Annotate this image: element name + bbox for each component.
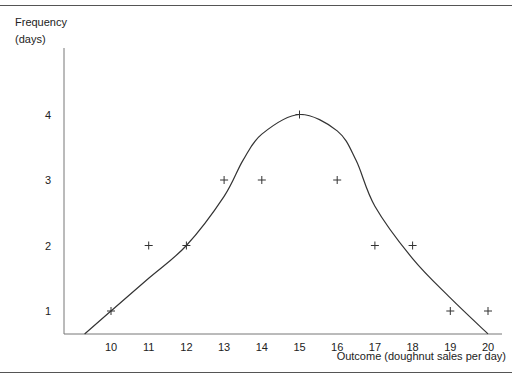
plus-marker — [409, 242, 417, 250]
x-tick-label: 14 — [256, 341, 268, 353]
plus-marker — [258, 176, 266, 184]
x-tick-label: 13 — [218, 341, 230, 353]
y-tick-label: 3 — [45, 174, 51, 186]
plus-marker — [446, 307, 454, 315]
x-tick-label: 10 — [105, 341, 117, 353]
fitted-curve — [85, 114, 488, 333]
chart-plot: 1234 1011121314151617181920 — [0, 0, 522, 380]
plus-marker — [371, 242, 379, 250]
y-tick-label: 4 — [45, 109, 51, 121]
x-tick-label: 12 — [180, 341, 192, 353]
plus-marker — [145, 242, 153, 250]
y-tick-labels: 1234 — [45, 109, 51, 318]
plus-marker — [484, 307, 492, 315]
x-tick-label: 15 — [293, 341, 305, 353]
x-axis-label: Outcome (doughnut sales per day) — [337, 350, 506, 362]
y-tick-label: 2 — [45, 240, 51, 252]
plus-marker — [220, 176, 228, 184]
x-tick-label: 11 — [143, 341, 154, 353]
data-markers — [107, 111, 492, 316]
plus-marker — [333, 176, 341, 184]
y-tick-label: 1 — [45, 305, 51, 317]
plus-marker — [296, 111, 304, 119]
